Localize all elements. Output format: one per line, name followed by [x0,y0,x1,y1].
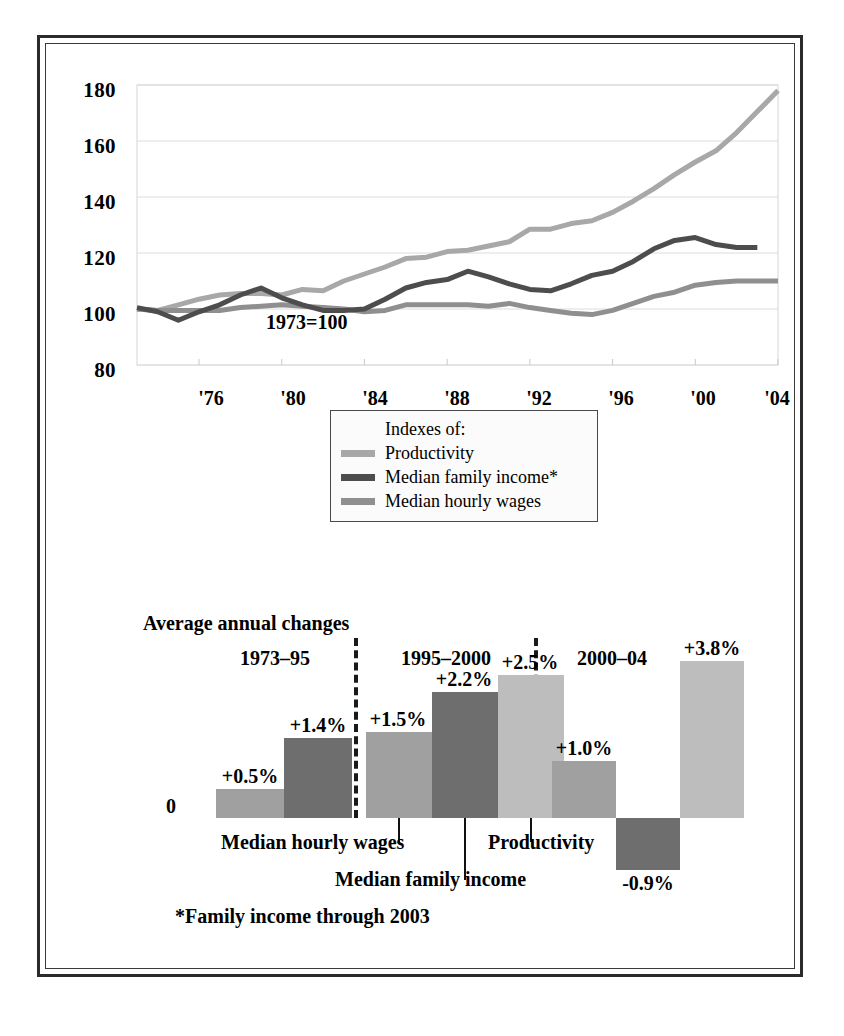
bar-2000-04-median-family-income[interactable] [616,818,680,870]
bar-1973-95-median-hourly-wages[interactable] [216,789,284,818]
zero-axis-label: 0 [166,795,176,818]
bar-chart: Average annual changes 1973–95 1995–2000… [0,0,844,1036]
bar-1973-95-median-family-income[interactable] [284,738,352,818]
figure-content: 180 160 140 120 100 80 '76 '80 '84 '88 '… [0,0,844,1036]
series-label-productivity: Productivity [488,831,594,854]
bar-value-label: +1.0% [534,737,634,760]
series-label-median-family-income: Median family income [335,868,526,891]
bar-1995-2000-median-hourly-wages[interactable] [366,732,432,818]
bar-value-label: +2.5% [480,651,580,674]
footnote: *Family income through 2003 [175,905,430,928]
bar-2000-04-productivity[interactable] [680,661,744,818]
period-label-1973-95: 1973–95 [215,647,335,670]
bar-value-label: -0.9% [598,872,698,895]
bar-2000-04-median-hourly-wages[interactable] [552,761,616,818]
bar-value-label: +3.8% [662,637,762,660]
bar-chart-title: Average annual changes [143,612,349,635]
series-label-median-hourly-wages: Median hourly wages [221,831,404,854]
bar-1995-2000-median-family-income[interactable] [432,692,498,818]
figure-page: 180 160 140 120 100 80 '76 '80 '84 '88 '… [0,0,844,1036]
